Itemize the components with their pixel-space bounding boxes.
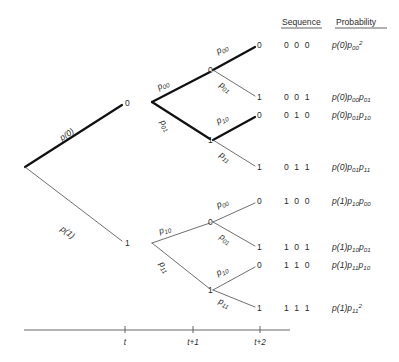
sequence-column: 0 0 0 0 0 1 0 1 0 0 1 1 1 0 0 1 0 1 1 1 … xyxy=(284,40,311,313)
edge-labels: p(0) p(1) p00 p01 p10 p11 p00 p01 xyxy=(57,41,233,310)
node-label-1: 1 xyxy=(125,238,130,248)
node-label-10: 0 xyxy=(208,217,213,227)
probability-value: p(0)p01p10 xyxy=(331,110,371,121)
sequence-value: 1 0 0 xyxy=(284,196,311,206)
edge-10-to-101 xyxy=(213,222,255,246)
time-axis: t t+1 t+2 xyxy=(24,326,290,347)
edge-label-1-11: p11 xyxy=(156,259,172,275)
edge-label-10-100: p00 xyxy=(214,196,231,211)
edge-label-11-111: p11 xyxy=(216,295,232,310)
node-label-0: 0 xyxy=(125,98,130,108)
leaf-label-011: 1 xyxy=(257,162,262,172)
axis-tick-label-t1: t+1 xyxy=(187,338,199,347)
edge-label-00-000: p00 xyxy=(213,41,230,57)
node-label-11: 1 xyxy=(208,285,213,295)
edge-label-root-1: p(1) xyxy=(58,223,77,241)
axis-tick-label-t: t xyxy=(124,338,127,347)
edge-root-to-0 xyxy=(25,105,122,167)
leaf-label-100: 0 xyxy=(257,196,262,206)
sequence-value: 1 1 1 xyxy=(284,303,311,313)
edge-00-to-001 xyxy=(213,70,255,96)
axis-tick-label-t2: t+2 xyxy=(254,338,266,347)
sequence-value: 1 1 0 xyxy=(284,260,311,270)
leaf-label-010: 0 xyxy=(257,110,262,120)
probability-tree-svg: p(0) p(1) p00 p01 p10 p11 p00 p01 xyxy=(0,0,399,362)
edge-label-01-010: p10 xyxy=(213,111,230,127)
probability-value: p(1)p10p00 xyxy=(331,196,371,207)
probability-column: p(0)p002 p(0)p00p01 p(0)p01p10 p(0)p01p1… xyxy=(331,39,371,314)
leaf-label-110: 0 xyxy=(257,260,262,270)
probability-value: p(1)p11p10 xyxy=(331,260,371,271)
node-label-01: 1 xyxy=(208,135,213,145)
leaf-label-001: 1 xyxy=(257,92,262,102)
edge-label-0-00: p00 xyxy=(154,77,171,93)
column-headers: Sequence Probability xyxy=(281,17,387,28)
probability-value: p(1)p112 xyxy=(331,302,363,314)
sequence-value: 1 0 1 xyxy=(284,242,311,252)
sequence-value: 0 0 1 xyxy=(284,92,311,102)
probability-column-header: Probability xyxy=(336,17,377,27)
edge-01-to-011 xyxy=(213,140,255,166)
leaf-label-101: 1 xyxy=(257,242,262,252)
node-labels: 0 1 0 1 0 1 xyxy=(125,65,213,295)
sequence-value: 0 0 0 xyxy=(284,40,311,50)
sequence-value: 0 1 1 xyxy=(284,162,311,172)
probability-value: p(0)p01p11 xyxy=(331,162,370,173)
leaf-labels: 0 1 0 1 0 1 0 1 xyxy=(257,40,262,313)
edge-label-1-10: p10 xyxy=(156,222,172,237)
probability-value: p(0)p00p01 xyxy=(331,92,371,103)
probability-value: p(1)p10p01 xyxy=(331,242,371,253)
sequence-value: 0 1 0 xyxy=(284,110,311,120)
node-label-00: 0 xyxy=(208,65,213,75)
edge-label-0-01: p01 xyxy=(157,117,173,134)
leaf-label-111: 1 xyxy=(257,303,262,313)
edge-label-11-110: p10 xyxy=(213,263,230,279)
edge-label-01-011: p11 xyxy=(216,149,232,165)
leaf-label-000: 0 xyxy=(257,40,262,50)
figure-canvas: p(0) p(1) p00 p01 p10 p11 p00 p01 xyxy=(0,0,399,362)
sequence-column-header: Sequence xyxy=(282,17,321,27)
edge-label-10-101: p01 xyxy=(217,231,234,247)
probability-value: p(0)p002 xyxy=(331,39,363,51)
